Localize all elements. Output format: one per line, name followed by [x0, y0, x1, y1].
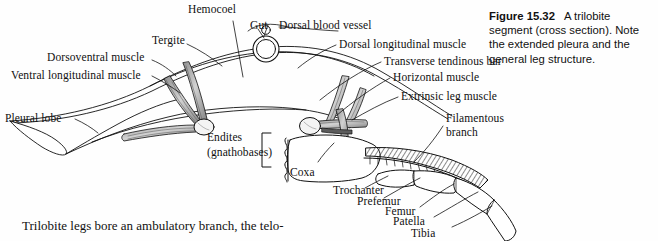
label-hemocoel: Hemocoel [188, 3, 236, 16]
figure-number: Figure 15.32 [489, 10, 555, 22]
label-endites-line2: (gnathobases) [207, 146, 272, 159]
label-filamentous-branch-line1: Filamentous [446, 112, 504, 125]
label-tergite: Tergite [152, 34, 185, 47]
endite-squiggle [285, 138, 287, 182]
figure-page: Hemocoel Gut Dorsal blood vessel Tergite… [0, 0, 658, 241]
body-paragraph: Trilobite legs bore an ambulatory branch… [22, 218, 284, 234]
figure-caption: Figure 15.32A trilobite segment (cross s… [489, 9, 655, 66]
label-extrinsic-leg-muscle: Extrinsic leg muscle [401, 90, 497, 103]
label-dorsoventral-muscle: Dorsoventral muscle [47, 51, 144, 64]
gut-structure [253, 36, 279, 62]
label-pleural-lobe: Pleural lobe [5, 112, 61, 125]
label-coxa: Coxa [290, 166, 315, 179]
label-gut: Gut [250, 19, 268, 32]
label-endites-line1: Endites [207, 131, 242, 144]
label-transverse-tendinous-bar: Transverse tendinous bar [384, 55, 502, 68]
label-ventral-longitudinal-muscle: Ventral longitudinal muscle [11, 69, 141, 82]
label-tibia: Tibia [411, 227, 435, 240]
pleural-lobe-shape [10, 100, 176, 155]
label-dorsal-blood-vessel: Dorsal blood vessel [279, 19, 372, 32]
label-horizontal-muscle: Horizontal muscle [393, 71, 479, 84]
label-filamentous-branch-line2: branch [446, 126, 478, 139]
label-dorsal-longitudinal-muscle: Dorsal longitudinal muscle [339, 38, 466, 51]
